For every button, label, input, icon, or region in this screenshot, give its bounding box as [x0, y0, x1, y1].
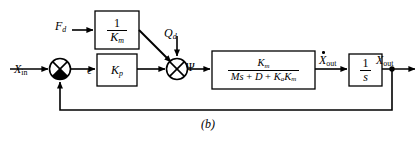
inverse-motor-gain-label: 1 Km — [95, 11, 139, 49]
block-diagram-figure: 1 Km Kp Km Ms + D + KaKm 1 s Xin ϵ Fd Qd… — [0, 0, 420, 143]
inv-km-denominator: Km — [107, 30, 127, 43]
integrator-numerator: 1 — [360, 57, 372, 69]
plant-denominator: Ms + D + KaKm — [228, 70, 299, 83]
plant-numerator: Km — [254, 58, 272, 70]
signal-label-x-in: Xin — [14, 63, 28, 75]
signal-label-epsilon: ϵ — [87, 65, 91, 76]
signal-label-q-d: Qd — [164, 27, 177, 39]
error-summing-junction — [50, 59, 71, 80]
signal-label-x-out: Xout — [376, 54, 393, 66]
figure-caption: (b) — [201, 118, 215, 130]
inv-km-numerator: 1 — [111, 17, 123, 29]
signal-label-f-d: Fd — [55, 20, 66, 32]
dot-accent-icon — [322, 51, 325, 54]
signal-label-x-dot-out: X out — [319, 54, 336, 66]
plant-transfer-function-label: Km Ms + D + KaKm — [212, 51, 315, 89]
kp-subscript: p — [119, 69, 123, 78]
integrator-denominator: s — [360, 70, 371, 83]
disturbance-summing-junction — [167, 59, 188, 80]
kp-symbol: K — [111, 63, 119, 77]
signal-label-psi: Ψ — [186, 61, 195, 73]
proportional-gain-label: Kp — [97, 54, 137, 86]
